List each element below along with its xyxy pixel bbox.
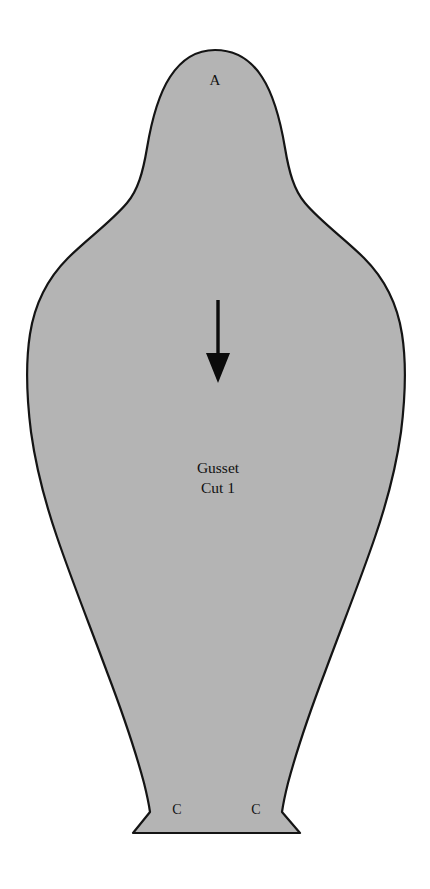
pattern-piece-canvas: A Gusset Cut 1 C C bbox=[0, 0, 430, 889]
pattern-sheet: A Gusset Cut 1 C C bbox=[0, 0, 430, 889]
gusset-piece-outline bbox=[27, 50, 405, 833]
notch-label-a: A bbox=[210, 72, 221, 88]
piece-title-line-1: Gusset bbox=[197, 459, 240, 476]
notch-label-c-left: C bbox=[172, 802, 181, 817]
notch-label-c-right: C bbox=[251, 802, 260, 817]
piece-title-line-2: Cut 1 bbox=[201, 479, 235, 496]
